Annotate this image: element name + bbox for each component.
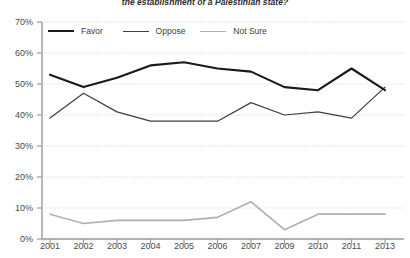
y-axis-label: 50% bbox=[0, 80, 33, 89]
x-axis-label: 2013 bbox=[365, 241, 405, 251]
series-line-oppose bbox=[50, 87, 385, 121]
y-axis-label: 0% bbox=[0, 235, 33, 244]
chart-container: the establishment of a Palestinian state… bbox=[0, 0, 410, 258]
chart-plot-area bbox=[0, 0, 410, 258]
series-line-not-sure bbox=[50, 202, 385, 230]
y-axis-label: 60% bbox=[0, 49, 33, 58]
y-axis-label: 70% bbox=[0, 18, 33, 27]
y-axis-label: 30% bbox=[0, 142, 33, 151]
y-axis-label: 40% bbox=[0, 111, 33, 120]
y-axis-label: 10% bbox=[0, 204, 33, 213]
y-axis-label: 20% bbox=[0, 173, 33, 182]
series-line-favor bbox=[50, 62, 385, 90]
